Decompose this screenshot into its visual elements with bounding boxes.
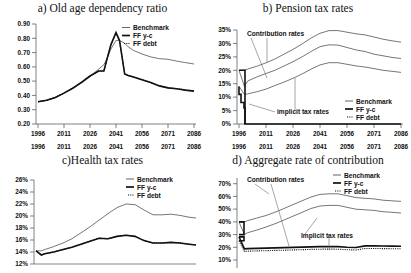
panel-d-line-ffyc-contribution [239, 205, 401, 234]
legend-label-ff-yc: FF y-c [344, 180, 364, 188]
panel-d-y-ticks [233, 184, 237, 260]
figure-four-panel-charts: a) Old age dependency ratio [0, 0, 411, 273]
panel-b-line-ffyc-contribution [239, 45, 401, 87]
panel-c-xtick-5: 2071 [161, 143, 176, 150]
panel-a-line-benchmark [38, 40, 194, 101]
panel-c-legend: Benchmark FF y-c FF debt [126, 176, 173, 199]
panel-c-xtick-6: 2086 [187, 143, 202, 150]
panel-d-top-xaxis-labels: 1996 2011 2026 2041 2056 2071 2086 [205, 140, 411, 154]
panel-b-xtick-1: 2011 [259, 130, 273, 137]
panel-d-legend: Benchmark FF y-c FF debt [333, 172, 380, 195]
annotation-contribution-rates: Contribution rates [247, 176, 304, 183]
legend-label-ff-debt: FF debt [356, 114, 381, 121]
panel-a-ytick-5: 0.70 [18, 49, 31, 56]
panel-c-line-benchmark [36, 204, 196, 251]
panel-b-xtick-5: 2071 [367, 130, 382, 137]
panel-c-xtick-1: 2011 [57, 143, 71, 150]
panel-c-ytick-3: 18% [15, 224, 28, 231]
panel-b-plot: 0% 5% 10% 15% 20% 25% 30% 35% [205, 16, 411, 140]
panel-a-xtick-0: 1996 [31, 130, 46, 137]
panel-a-xtick-2: 2026 [83, 130, 98, 137]
panel-c-ytick-7: 26% [15, 176, 28, 183]
panel-a-ytick-3: 0.50 [18, 77, 31, 84]
panel-a-legend: Benchmark FF y-c FF debt [122, 24, 169, 47]
panel-d-xtick-1: 2011 [259, 143, 273, 150]
panel-b-x-labels: 1996 2011 2026 2041 2056 2071 2086 [232, 130, 409, 137]
panel-c-ytick-1: 14% [15, 248, 28, 255]
panel-c-ytick-6: 24% [15, 188, 28, 195]
panel-a-ytick-0: 0.20 [18, 120, 31, 127]
panel-a-xtick-5: 2071 [161, 130, 176, 137]
annotation-implicit-tax-rates: Implicit tax rates [301, 232, 353, 240]
panel-d-xtick-6: 2086 [394, 143, 409, 150]
legend-label-benchmark: Benchmark [356, 98, 392, 105]
panel-b-xtick-4: 2056 [340, 130, 355, 137]
panel-a-ytick-1: 0.30 [18, 106, 31, 113]
panel-b-line-ffyc-implicit [239, 63, 401, 95]
panel-a-old-age-dependency-ratio: a) Old age dependency ratio [0, 0, 205, 140]
panel-a-ytick-2: 0.40 [18, 92, 31, 99]
legend-label-benchmark: Benchmark [344, 172, 380, 179]
panel-d-line-benchmark-contribution [239, 194, 401, 222]
panel-b-ytick-6: 30% [218, 40, 231, 47]
panel-d-ytick-0: 10% [218, 256, 231, 263]
legend-label-ff-yc: FF y-c [137, 184, 157, 192]
panel-b-ytick-1: 5% [222, 107, 232, 114]
panel-a-y-ticks [32, 24, 36, 124]
panel-a-ytick-7: 0.90 [18, 20, 31, 27]
panel-b-ytick-2: 10% [218, 93, 231, 100]
panel-c-title: c)Health tax rates [0, 154, 205, 166]
panel-b-ytick-3: 15% [218, 80, 231, 87]
panel-b-xtick-3: 2041 [313, 130, 328, 137]
legend-label-ff-yc: FF y-c [133, 32, 153, 40]
panel-b-xtick-0: 1996 [232, 130, 247, 137]
panel-d-series [239, 194, 401, 252]
panel-a-axes [36, 24, 196, 124]
panel-a-ytick-4: 0.60 [18, 63, 31, 70]
panel-c-ytick-0: 12% [15, 260, 28, 267]
legend-label-benchmark: Benchmark [137, 176, 173, 183]
panel-c-line-ffyc [36, 235, 196, 255]
panel-d-ytick-2: 30% [218, 231, 231, 238]
panel-d-xtick-5: 2071 [367, 143, 382, 150]
annotation-implicit-tax-rates: implicit tax rates [277, 108, 329, 116]
panel-d-xtick-2: 2026 [286, 143, 301, 150]
legend-label-ff-debt: FF debt [133, 40, 158, 47]
panel-c-ytick-2: 16% [15, 236, 28, 243]
legend-label-ff-debt: FF debt [137, 192, 162, 199]
panel-c-ytick-4: 20% [15, 212, 28, 219]
panel-c-line-ffdebt [36, 235, 196, 255]
panel-c-xtick-0: 1996 [31, 143, 46, 150]
panel-d-title: d) Aggregate rate of contribution [205, 154, 411, 166]
panel-a-xtick-3: 2041 [109, 130, 124, 137]
panel-b-xtick-2: 2026 [286, 130, 301, 137]
panel-c-ytick-5: 22% [15, 200, 28, 207]
panel-d-ytick-4: 50% [218, 205, 231, 212]
panel-a-xtick-1: 2011 [57, 130, 71, 137]
panel-d-xtick-0: 1996 [232, 143, 247, 150]
panel-a-y-labels: 0.20 0.30 0.40 0.50 0.60 0.70 0.80 0.90 [18, 20, 31, 127]
panel-d-xtick-3: 2041 [313, 143, 328, 150]
panel-c-xtick-3: 2041 [109, 143, 124, 150]
panel-c-xtick-4: 2056 [135, 143, 150, 150]
legend-label-ff-debt: FF debt [344, 188, 369, 195]
legend-label-benchmark: Benchmark [133, 24, 169, 31]
panel-c-y-ticks [30, 180, 34, 264]
panel-b-ytick-4: 20% [218, 67, 231, 74]
panel-a-ytick-6: 0.80 [18, 35, 31, 42]
panel-b-xtick-6: 2086 [394, 130, 409, 137]
panel-a-x-ticks [38, 124, 194, 128]
panel-a-x-labels: 1996 2011 2026 2041 2056 2071 2086 [31, 130, 202, 137]
panel-d-xtick-4: 2056 [340, 143, 355, 150]
panel-a-xtick-4: 2056 [135, 130, 150, 137]
panel-b-ytick-0: 0% [222, 120, 232, 127]
panel-d-aggregate-rate-of-contribution: d) Aggregate rate of contribution 10% [205, 140, 411, 273]
panel-b-y-ticks [233, 30, 237, 124]
panel-c-xtick-2: 2026 [83, 143, 98, 150]
panel-b-ytick-7: 35% [218, 26, 231, 33]
panel-c-plot: 12% 14% 16% 18% 20% 22% 24% 26% Benchmar [0, 176, 205, 273]
panel-a-series [38, 33, 194, 102]
annotation-contribution-rates: Contribution rates [247, 30, 304, 37]
panel-d-plot: 10% 20% 30% 40% 50% 60% 70% Contributio [205, 172, 411, 273]
panel-b-annotations: Contribution rates implicit tax rates [247, 30, 329, 116]
